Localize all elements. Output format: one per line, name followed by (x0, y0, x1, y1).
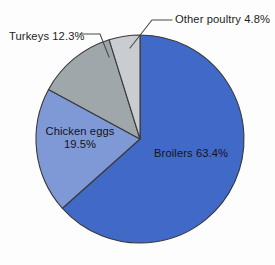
pie-label-chicken-eggs-value: 19.5% (38, 138, 122, 151)
pie-chart: Other poultry 4.8% Turkeys 12.3% Chicken… (0, 0, 275, 265)
pie-label-turkeys: Turkeys 12.3% (9, 30, 85, 43)
pie-label-chicken-eggs-name: Chicken eggs (38, 125, 122, 138)
pie-label-other-poultry: Other poultry 4.8% (175, 13, 270, 26)
pie-label-chicken-eggs: Chicken eggs 19.5% (38, 125, 122, 150)
pie-label-broilers: Broilers 63.4% (154, 147, 228, 160)
